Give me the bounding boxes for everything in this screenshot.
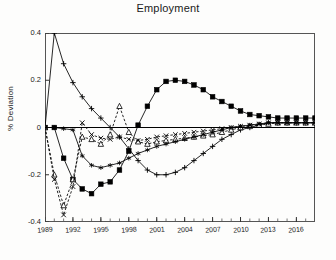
series-plus-series xyxy=(45,33,315,177)
y-tick-label: -0.4 xyxy=(15,217,41,226)
x-tick-label: 2001 xyxy=(141,225,171,235)
x-tick-label: 2007 xyxy=(197,225,227,235)
y-tick-label: 0.4 xyxy=(15,28,41,37)
chart-container: Employment % Deviation 0.40.20-0.2-0.4 1… xyxy=(0,0,336,260)
series-x-marker-series xyxy=(45,120,315,217)
y-tick-label: -0.2 xyxy=(15,170,41,179)
y-axis-label: % Deviation xyxy=(6,74,15,144)
y-tick-label: 0.2 xyxy=(15,75,41,84)
chart-svg xyxy=(45,33,315,222)
x-tick-label: 1995 xyxy=(86,225,116,235)
x-tick-label: 2010 xyxy=(225,225,255,235)
x-tick-label: 2013 xyxy=(253,225,283,235)
plot-area xyxy=(45,33,315,222)
series-filled-square-series xyxy=(45,78,315,196)
chart-title: Employment xyxy=(0,2,336,14)
x-tick-label: 1989 xyxy=(30,225,60,235)
y-tick-label: 0 xyxy=(15,123,41,132)
x-tick-label: 1992 xyxy=(58,225,88,235)
x-tick-label: 1998 xyxy=(114,225,144,235)
x-tick-label: 2016 xyxy=(281,225,311,235)
series-open-triangle-series xyxy=(45,103,315,207)
x-tick-label: 2004 xyxy=(169,225,199,235)
